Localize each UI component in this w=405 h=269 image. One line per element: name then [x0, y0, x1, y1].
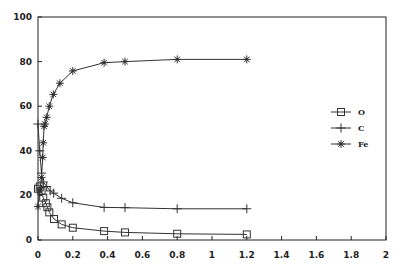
x-tick-label: 0.6 — [134, 250, 150, 260]
series-line — [38, 59, 247, 206]
asterisk-marker-icon — [37, 174, 45, 182]
series-fe — [34, 55, 251, 210]
asterisk-marker-icon — [173, 55, 181, 63]
plus-marker-icon — [121, 203, 130, 212]
legend-item-fe: Fe — [331, 139, 368, 149]
x-tick-label: 1.4 — [274, 250, 290, 260]
asterisk-marker-icon — [39, 153, 47, 161]
x-tick-label: 0 — [35, 250, 41, 260]
plus-marker-icon — [57, 194, 66, 203]
asterisk-marker-icon — [337, 140, 345, 148]
asterisk-marker-icon — [39, 139, 47, 147]
plus-marker-icon — [173, 204, 182, 213]
x-tick-label: 1.8 — [343, 250, 359, 260]
x-tick-label: 0.8 — [169, 250, 185, 260]
series-line — [38, 124, 247, 209]
legend-item-o: O — [331, 107, 365, 117]
x-tick-label: 0.4 — [100, 250, 116, 260]
y-tick-label: 0 — [26, 235, 32, 245]
y-tick-label: 100 — [13, 12, 32, 22]
y-tick-label: 40 — [19, 146, 32, 156]
plus-marker-icon — [242, 204, 251, 213]
axis-ticks: 00.20.40.60.811.21.41.61.82020406080100 — [13, 12, 389, 260]
x-tick-label: 0.2 — [65, 250, 81, 260]
legend-label: Fe — [358, 139, 368, 149]
series-c — [34, 120, 252, 214]
x-tick-label: 1 — [209, 250, 215, 260]
asterisk-marker-icon — [36, 187, 44, 195]
asterisk-marker-icon — [56, 79, 64, 87]
legend-item-c: C — [331, 123, 364, 133]
legend-label: O — [358, 107, 365, 117]
x-tick-label: 1.2 — [239, 250, 255, 260]
asterisk-marker-icon — [69, 67, 77, 75]
asterisk-marker-icon — [100, 59, 108, 67]
plus-marker-icon — [68, 198, 77, 207]
asterisk-marker-icon — [243, 55, 251, 63]
data-series — [34, 55, 252, 238]
asterisk-marker-icon — [34, 203, 42, 211]
x-tick-label: 1.6 — [308, 250, 324, 260]
y-tick-label: 60 — [19, 101, 32, 111]
y-tick-label: 80 — [19, 57, 32, 67]
y-tick-label: 20 — [19, 190, 32, 200]
asterisk-marker-icon — [121, 58, 129, 66]
asterisk-marker-icon — [41, 120, 49, 128]
plus-marker-icon — [100, 203, 109, 212]
line-chart: 00.20.40.60.811.21.41.61.82020406080100 … — [0, 0, 405, 269]
asterisk-marker-icon — [45, 102, 53, 110]
plus-marker-icon — [337, 124, 346, 133]
asterisk-marker-icon — [49, 90, 57, 98]
legend: OCFe — [331, 107, 368, 149]
legend-label: C — [358, 123, 364, 133]
x-tick-label: 2 — [383, 250, 389, 260]
series-o — [35, 183, 251, 238]
asterisk-marker-icon — [43, 113, 51, 121]
